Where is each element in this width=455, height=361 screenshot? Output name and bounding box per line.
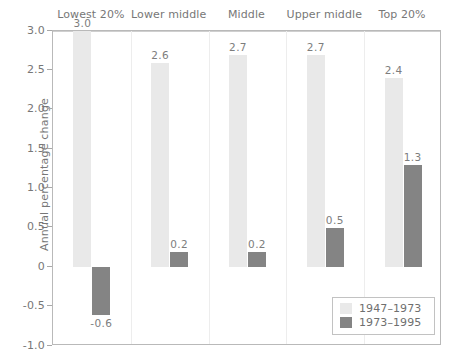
bar-value-label-1-1: 0.2	[162, 238, 196, 250]
group-separator-2	[209, 31, 210, 344]
category-label-4: Top 20%	[363, 8, 441, 26]
bar-value-label-2-0: 2.7	[221, 41, 255, 53]
y-tick-5: 0.5	[27, 221, 52, 233]
y-tick-label: 1.0	[27, 181, 45, 194]
y-tick-2: 2.0	[27, 103, 52, 115]
y-tick-label: 2.0	[27, 102, 45, 115]
y-tick-7: -0.5	[23, 300, 52, 312]
bar-chart: Lowest 20%Lower middleMiddleUpper middle…	[0, 0, 455, 361]
y-tick-4: 1.0	[27, 182, 52, 194]
legend-item-1: 1973–1995	[340, 316, 427, 329]
category-label-1: Lower middle	[130, 8, 208, 26]
bar-value-label-4-0: 2.4	[377, 64, 411, 76]
zero-baseline	[53, 31, 440, 32]
bar-3-1	[326, 228, 344, 267]
bar-0-0	[73, 31, 91, 267]
bar-4-1	[404, 165, 422, 267]
category-label-3: Upper middle	[285, 8, 363, 26]
bar-value-label-2-1: 0.2	[240, 238, 274, 250]
category-axis-labels: Lowest 20%Lower middleMiddleUpper middle…	[52, 8, 441, 26]
y-axis-ticks: 3.02.52.01.51.00.50-0.5-1.0	[0, 0, 52, 361]
y-tick-label: 0	[38, 260, 45, 273]
bar-1-1	[170, 252, 188, 268]
group-separator-1	[131, 31, 132, 344]
group-separator-3	[286, 31, 287, 344]
y-tick-label: 2.5	[27, 63, 45, 76]
legend-label-0: 1947–1973	[359, 302, 421, 315]
bar-2-0	[229, 55, 247, 268]
y-tick-1: 2.5	[27, 63, 52, 75]
bar-0-1	[92, 267, 110, 314]
bar-2-1	[248, 252, 266, 268]
y-tick-label: 0.5	[27, 220, 45, 233]
legend-swatch-0	[340, 303, 352, 314]
bar-4-0	[385, 78, 403, 267]
bar-3-0	[307, 55, 325, 268]
y-tick-3: 1.5	[27, 142, 52, 154]
legend-item-0: 1947–1973	[340, 302, 427, 315]
y-tick-0: 3.0	[27, 24, 52, 36]
y-tick-6: 0	[38, 260, 52, 272]
legend: 1947–19731973–1995	[332, 297, 435, 335]
bar-value-label-4-1: 1.3	[396, 151, 430, 163]
legend-label-1: 1973–1995	[359, 316, 421, 329]
y-tick-label: 1.5	[27, 142, 45, 155]
bar-value-label-3-1: 0.5	[318, 214, 352, 226]
bar-value-label-3-0: 2.7	[299, 41, 333, 53]
legend-swatch-1	[340, 317, 352, 328]
y-tick-label: -1.0	[23, 339, 45, 352]
y-tick-label: 3.0	[27, 24, 45, 37]
y-tick-label: -0.5	[23, 299, 45, 312]
y-tick-8: -1.0	[23, 339, 52, 351]
category-label-2: Middle	[208, 8, 286, 26]
bar-value-label-1-0: 2.6	[143, 49, 177, 61]
bar-value-label-0-1: -0.6	[84, 317, 118, 329]
bar-value-label-0-0: 3.0	[65, 17, 99, 29]
